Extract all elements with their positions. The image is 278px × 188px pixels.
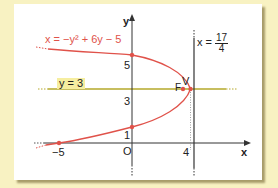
vertex-point [188, 87, 192, 91]
vertex-label: V [182, 76, 189, 87]
origin-label: O [123, 146, 132, 157]
tick-label-x-4: 4 [183, 147, 189, 158]
focus-label: F [175, 83, 181, 93]
point-neg5-0 [57, 141, 61, 145]
directrix-label: x = 17 4 [197, 33, 228, 54]
y-axis-arrow-icon [129, 14, 135, 21]
x-axis-label: x [241, 147, 247, 158]
tick-label-y-3: 3 [124, 96, 130, 107]
parabola-diagram [0, 0, 278, 188]
fraction: 17 4 [215, 33, 228, 54]
point-0-1 [130, 125, 134, 129]
point-0-5 [130, 53, 134, 57]
equation-label: x = −y² + 6y − 5 [45, 34, 121, 45]
parabola-curve [36, 47, 191, 148]
line-y3-label: y = 3 [57, 78, 85, 89]
focus-point [181, 87, 185, 91]
x-axis [34, 140, 251, 146]
y-axis-label: y [123, 16, 129, 27]
tick-label-y-5: 5 [124, 60, 130, 71]
tick-label-y-1: 1 [124, 130, 130, 141]
tick-label-x-neg5: −5 [52, 147, 65, 158]
